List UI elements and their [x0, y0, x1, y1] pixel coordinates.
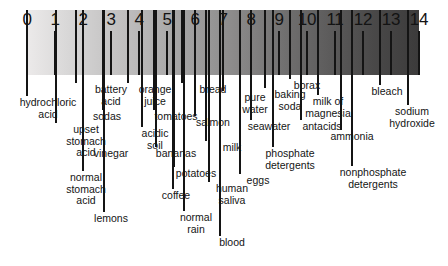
- callout-normal-stomach-acid: normal stomach acid: [66, 172, 106, 207]
- callout-bleach-leader-line: [379, 10, 381, 85]
- callout-coffee-leader-line: [172, 10, 174, 189]
- callout-seawater: seawater: [248, 121, 291, 133]
- callout-tomatoes: tomatoes: [154, 111, 197, 123]
- callout-nonphosphate-detergents: nonphosphate detergents: [340, 167, 407, 190]
- ph-tick-mark-4: [138, 31, 140, 75]
- callout-orange-juice: orange juice: [139, 84, 172, 107]
- callout-baking-soda-leader-line: [264, 10, 266, 88]
- callout-milk: milk: [223, 142, 242, 154]
- callout-eggs: eggs: [247, 175, 270, 187]
- ph-tick-mark-3: [110, 31, 112, 75]
- callout-orange-juice-leader-line: [127, 10, 129, 83]
- callout-hydrochloric-acid-leader-line: [26, 10, 28, 96]
- callout-hydrochloric-acid: hydrochloric acid: [20, 97, 77, 120]
- callout-ammonia: ammonia: [330, 131, 373, 143]
- ph-tick-label-3: 3: [106, 9, 115, 31]
- ph-tick-label-5: 5: [162, 9, 171, 31]
- callout-salmon: salmon: [196, 117, 230, 129]
- ph-tick-label-9: 9: [274, 9, 283, 31]
- ph-tick-mark-5: [166, 31, 168, 75]
- callout-borax: borax: [294, 80, 320, 92]
- ph-tick-mark-14: [418, 31, 420, 75]
- callout-blood: blood: [219, 237, 245, 249]
- callout-salmon-leader-line: [194, 10, 196, 116]
- callout-human-saliva: human saliva: [216, 183, 248, 206]
- callout-nonphosphate-detergents-leader-line: [351, 10, 353, 166]
- callout-normal-rain: normal rain: [180, 212, 212, 235]
- ph-tick-label-14: 14: [410, 9, 428, 31]
- callout-sodium-hydroxide-leader-line: [407, 10, 409, 105]
- ph-scale-diagram: 01234567891011121314 hydrochloric acidup…: [0, 0, 448, 266]
- ph-tick-mark-10: [306, 31, 308, 75]
- ph-tick-mark-9: [278, 31, 280, 75]
- ph-tick-mark-12: [362, 31, 364, 75]
- ph-tick-label-13: 13: [382, 9, 400, 31]
- callout-baking-soda: baking soda: [275, 89, 306, 112]
- callout-milk-of-magnesia: milk of magnesia: [305, 96, 351, 119]
- callout-pure-water: pure water: [242, 92, 268, 115]
- callout-borax-leader-line: [289, 10, 291, 79]
- callout-pure-water-leader-line: [222, 10, 224, 91]
- callout-potatoes: potatoes: [176, 168, 216, 180]
- callout-lemons: lemons: [94, 213, 128, 225]
- callout-battery-acid: battery acid: [95, 84, 127, 107]
- callout-battery-acid-leader-line: [75, 10, 77, 83]
- callout-sodium-hydroxide: sodium hydroxide: [389, 106, 435, 129]
- ph-tick-mark-11: [334, 31, 336, 75]
- callout-acidic-soil-leader-line: [141, 10, 143, 127]
- callout-sodas: sodas: [93, 111, 121, 123]
- callout-human-saliva-leader-line: [208, 10, 210, 182]
- callout-bananas: bananas: [156, 148, 196, 160]
- callout-bleach: bleach: [372, 86, 403, 98]
- ph-tick-mark-13: [390, 31, 392, 75]
- ph-tick-label-12: 12: [354, 9, 372, 31]
- callout-bread: bread: [200, 84, 227, 96]
- callout-phosphate-detergents: phosphate detergents: [265, 148, 315, 171]
- callout-vinegar: vinegar: [94, 148, 128, 160]
- callout-coffee: coffee: [162, 190, 190, 202]
